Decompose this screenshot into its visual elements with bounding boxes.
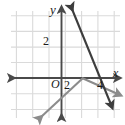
y-axis-label: y [50,3,56,16]
coordinate-graph-figure: y x O 2 4 2 [0,0,125,125]
graph-canvas [0,0,125,125]
x-tick-label-4: 4 [97,79,103,91]
y-tick-label-2: 2 [43,35,49,47]
x-tick-label-2: 2 [64,79,70,91]
origin-label: O [51,78,60,90]
x-axis-label: x [113,67,118,79]
